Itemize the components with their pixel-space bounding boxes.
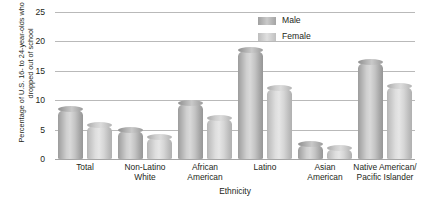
x-tick-label-line: American bbox=[167, 172, 243, 182]
bar-cap bbox=[298, 141, 323, 147]
bar-male bbox=[58, 109, 83, 159]
y-tick-20: 20 bbox=[19, 37, 45, 46]
y-tick-0: 0 bbox=[19, 155, 45, 164]
bar-group bbox=[115, 12, 175, 159]
x-axis-title: Ethnicity bbox=[55, 186, 415, 196]
legend-label-male: Male bbox=[282, 16, 301, 25]
bar-male bbox=[178, 103, 203, 159]
bar-cap bbox=[87, 122, 112, 128]
bar-male bbox=[238, 50, 263, 159]
y-tick-5: 5 bbox=[19, 126, 45, 135]
bar-cap bbox=[147, 134, 172, 140]
x-tick-label: Native American/Pacific Islander bbox=[347, 162, 421, 182]
bar-cap bbox=[58, 106, 83, 112]
legend-label-female: Female bbox=[282, 32, 311, 41]
legend-swatch-female-icon bbox=[258, 33, 276, 41]
bar-group bbox=[355, 12, 415, 159]
x-tick-label-line: Pacific Islander bbox=[347, 172, 421, 182]
y-tick-25: 25 bbox=[19, 8, 45, 17]
legend-swatch-male-icon bbox=[258, 17, 276, 25]
bar-cap bbox=[358, 59, 383, 65]
bar-male bbox=[358, 62, 383, 159]
x-tick-label-line: Native American/ bbox=[347, 162, 421, 172]
bar-cap bbox=[327, 145, 352, 151]
bar-female bbox=[387, 86, 412, 160]
plot-area: 2520151050 bbox=[55, 12, 415, 159]
bar-cap bbox=[178, 100, 203, 106]
bar-group bbox=[175, 12, 235, 159]
bar-cap bbox=[267, 85, 292, 91]
legend: Male Female bbox=[258, 14, 348, 46]
dropout-rate-bar-chart: Percentage of U.S. 16- to 24-year-olds w… bbox=[0, 0, 421, 215]
legend-item-male: Male bbox=[258, 14, 348, 27]
bar-female bbox=[267, 88, 292, 159]
bar-cap bbox=[387, 83, 412, 89]
bar-cap bbox=[238, 47, 263, 53]
bar-cap bbox=[207, 115, 232, 121]
bar-female bbox=[327, 148, 352, 159]
legend-item-female: Female bbox=[258, 30, 348, 43]
bar-group bbox=[55, 12, 115, 159]
bar-male bbox=[118, 130, 143, 159]
bar-cap bbox=[118, 127, 143, 133]
bar-male bbox=[298, 144, 323, 159]
y-tick-10: 10 bbox=[19, 96, 45, 105]
gridline-0 bbox=[55, 159, 415, 160]
bar-female bbox=[147, 137, 172, 159]
bar-female bbox=[207, 118, 232, 159]
y-tick-15: 15 bbox=[19, 67, 45, 76]
bar-series-container bbox=[55, 12, 415, 159]
bar-female bbox=[87, 125, 112, 159]
